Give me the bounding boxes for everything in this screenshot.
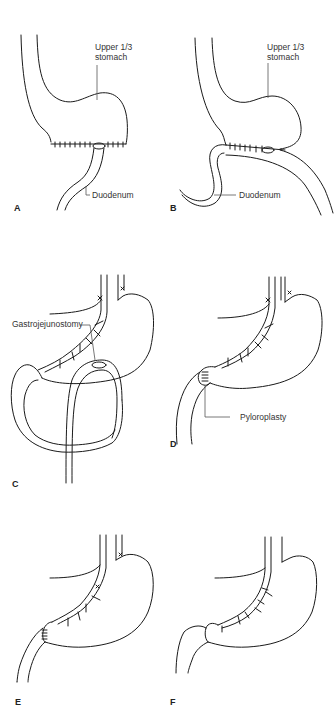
label-pyloroplasty: Pyloroplasty [240,412,287,422]
suture-marks [202,291,291,381]
panel-label-f: F [170,697,176,707]
efferent-limb [280,150,333,213]
panel-d: Pyloroplasty D [170,277,322,449]
vagus-nerve-line [50,300,101,314]
duodenum-wall [176,626,206,673]
duodenum-wall [57,148,94,210]
esophagus-left-wall [195,38,226,145]
panel-label-c: C [12,479,19,489]
pylorus-outline [205,623,218,642]
anastomosis-opening [262,147,274,153]
duodenum-wall [28,642,45,682]
panel-c: Gastrojejunostomy C [11,275,153,489]
stomach-outline [210,294,322,388]
panel-f: F [170,537,317,707]
panel-b: Upper 1/3 stomach Duodenum B [170,38,333,215]
duodenum-wall [191,383,210,444]
label-upper-stomach: stomach [95,52,127,62]
esophagus-wall [215,277,269,367]
jejunum-loop-inner [182,153,224,206]
panel-label-e: E [15,697,21,707]
esophagus-wall [58,535,106,624]
label-duodenum: Duodenum [92,190,134,200]
esophagus-wall [218,537,265,625]
panel-label-b: B [170,203,177,213]
gastrojejunostomy-opening [92,362,106,368]
suture-marks [42,553,122,639]
panel-label-a: A [14,203,21,213]
duodenum-wall [188,642,208,673]
jejunal-loop [72,370,117,483]
label-duodenum: Duodenum [239,190,281,200]
leader-line [205,385,230,417]
label-upper-stomach: Upper 1/3 [95,42,133,52]
duodenum-wall [176,372,200,444]
pylorus-outline [198,367,215,386]
vagus-nerve-line [50,565,100,578]
panel-a: Upper 1/3 stomach Duodenum A [14,35,134,213]
duodenum-wall [17,628,43,683]
panel-label-d: D [170,439,177,449]
duodenum-wall [65,148,104,210]
surgical-diagram: Upper 1/3 stomach Duodenum A Upper 1/3 s… [0,0,336,713]
label-upper-stomach: Upper 1/3 [267,42,305,52]
label-gastrojejunostomy: Gastrojejunostomy [12,319,84,329]
vagus-nerve-line [218,304,269,318]
panel-e: E [15,535,153,707]
label-upper-stomach: stomach [267,52,299,62]
leader-line [86,186,90,195]
esophagus-wall [52,535,100,622]
vagus-nerve-line [215,568,265,578]
